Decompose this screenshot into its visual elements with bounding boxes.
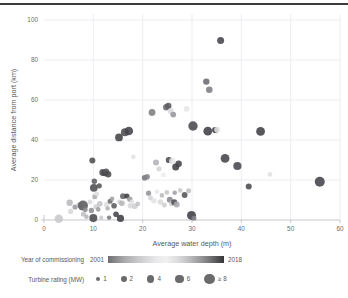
data-point [131,154,136,159]
legend-size-dot [96,277,100,281]
data-point [315,177,325,187]
data-point [105,171,111,177]
legend-year-gradient-bar [108,256,224,263]
data-point [268,172,273,177]
data-point [144,174,150,180]
data-point [233,162,241,170]
data-point [164,190,169,195]
legend-year-min-label: 2001 [90,256,104,263]
legend-size-item: 4 [147,275,161,282]
data-point [246,183,252,189]
data-point [188,121,197,130]
data-point [203,78,209,84]
data-point [99,216,103,220]
x-tick-label: 20 [139,225,147,232]
x-tick-label: 0 [42,225,46,232]
legend-size-item: ≥ 8 [204,274,227,285]
legend-size-label: ≥ 8 [218,275,227,282]
data-point [169,158,175,164]
legend-size-item: 1 [96,275,107,282]
legend-year-max-label: 2018 [228,256,242,263]
legend-size-dot [175,275,184,284]
data-point [66,200,72,206]
x-tick-label: 40 [238,225,246,232]
data-point [94,192,99,197]
data-point [184,106,190,112]
scatter-chart: 0204060801000102030405060Average water d… [0,0,348,248]
legend-size-items: 1246≥ 8 [90,274,227,285]
data-point [97,183,102,188]
data-point [178,188,183,193]
x-tick-label: 60 [336,225,344,232]
y-tick-label: 100 [27,16,38,23]
y-tick-label: 0 [34,216,38,223]
data-point [97,201,103,207]
legend-row-size: Turbine rating (MW) 1246≥ 8 [0,271,348,287]
data-point [90,184,98,192]
legend-size-title: Turbine rating (MW) [0,276,90,283]
data-point [107,215,111,219]
data-point [191,216,196,221]
legend-size-dot [204,274,215,285]
data-point [170,112,176,118]
legend-size-label: 4 [157,275,161,282]
data-point [115,134,123,142]
y-tick-label: 60 [31,96,39,103]
legend-size-label: 2 [130,275,134,282]
legend-row-year: Year of commissioning 2001 2018 [0,251,348,267]
y-tick-label: 80 [31,56,39,63]
data-point [68,209,73,214]
legend-size-dot [121,276,127,282]
y-tick-label: 40 [31,136,39,143]
data-point [221,154,230,163]
plot-area-wrapper: 0204060801000102030405060Average water d… [0,0,348,248]
data-point [111,203,117,209]
data-point [206,87,213,94]
data-point [149,109,156,116]
legend-size-label: 1 [103,275,107,282]
data-point [96,207,101,212]
y-tick-label: 20 [31,176,39,183]
data-point [135,202,140,207]
data-point [87,200,92,205]
legend-size-dot [147,275,154,282]
data-point [182,192,188,198]
data-point [146,191,151,196]
data-point [256,127,265,136]
x-tick-label: 30 [188,225,196,232]
data-point [161,172,166,177]
x-axis-title: Average water depth (m) [153,239,232,248]
data-point [156,166,161,171]
data-point [55,215,63,223]
legend-year-title: Year of commissioning [0,256,90,263]
data-point [160,193,165,198]
y-axis-title: Average distance from port (km) [9,69,18,172]
data-point [203,127,212,136]
data-point [153,160,159,166]
data-point [151,198,157,204]
data-point [89,208,94,213]
legend-size-item: 6 [175,275,190,284]
data-point [155,189,160,194]
data-point [84,215,89,220]
data-point [172,191,177,196]
legend-size-item: 2 [121,275,133,282]
data-point [119,200,125,206]
data-point [129,200,134,205]
data-point [89,214,97,222]
data-point [92,179,97,184]
data-point [83,207,88,212]
data-point [125,127,134,136]
data-point [186,188,191,193]
data-point [217,37,224,44]
legend-size-label: 6 [187,275,191,282]
data-point [174,202,180,208]
data-point [117,215,124,222]
x-tick-label: 50 [287,225,295,232]
data-point [175,161,181,167]
data-point [89,158,95,164]
data-point [214,127,220,133]
data-point [110,197,115,202]
chart-legend: Year of commissioning 2001 2018 Turbine … [0,248,348,298]
data-point [105,206,109,210]
